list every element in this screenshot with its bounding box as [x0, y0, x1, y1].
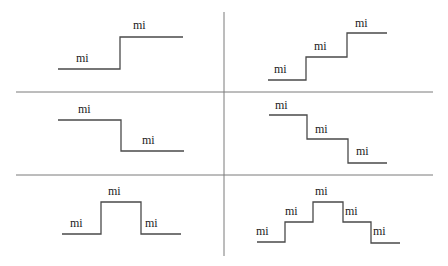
panel-pulse-one: mi mi mi [62, 184, 181, 234]
panel-step-up-two: mi mi mi [268, 16, 387, 80]
panel-step-down-one: mi mi [58, 102, 184, 151]
staircase-down-line [269, 115, 387, 163]
label-level-3: mi [355, 16, 368, 30]
label-level-3: mi [356, 144, 369, 158]
label-right-low: mi [373, 224, 386, 238]
label-low: mi [76, 51, 89, 65]
label-level-2: mi [314, 39, 327, 53]
panel-step-down-two: mi mi mi [269, 98, 387, 163]
label-high: mi [78, 102, 91, 116]
label-low: mi [142, 133, 155, 147]
label-left-mid: mi [285, 204, 298, 218]
label-top: mi [315, 184, 328, 198]
step-pattern-diagram: mi mi mi mi mi mi mi mi mi mi mi mi mi m… [0, 0, 448, 266]
label-left-low: mi [70, 216, 83, 230]
label-level-1: mi [274, 62, 287, 76]
label-right-mid: mi [345, 204, 358, 218]
label-level-2: mi [315, 122, 328, 136]
label-top: mi [108, 184, 121, 198]
label-level-1: mi [275, 98, 288, 112]
label-right-low: mi [145, 216, 158, 230]
panel-pulse-two: mi mi mi mi mi [256, 184, 400, 243]
panel-step-up-one: mi mi [58, 18, 183, 69]
step-down-line [58, 120, 184, 151]
label-high: mi [133, 18, 146, 32]
label-left-low: mi [256, 224, 269, 238]
